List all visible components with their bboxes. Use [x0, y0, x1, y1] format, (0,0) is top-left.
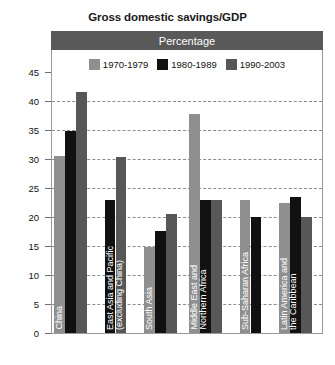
page-title: Gross domestic savings/GDP [0, 11, 335, 23]
bar [251, 217, 262, 333]
x-axis-category-label-line: Northern Africa [200, 265, 209, 330]
bar-group: China [52, 72, 97, 333]
x-axis-category-label-line: Sub-Saharan Africa [241, 252, 250, 330]
y-axis-tick-mark [45, 304, 51, 305]
y-axis-tick-label: 40 [28, 96, 39, 107]
x-axis-category-label-line: (excluding China) [115, 246, 124, 330]
bar-group: Sub-Saharan Africa [232, 72, 277, 333]
y-axis-tick-mark [45, 275, 51, 276]
x-axis-category-label: Latin America andthe Caribbean [280, 258, 299, 330]
x-axis-category-label: Middle East andNorthern Africa [190, 265, 209, 330]
x-axis-category-label-line: China [55, 306, 64, 330]
y-axis-tick-mark [45, 217, 51, 218]
bar-group: East Asia and Pacific(excluding China) [97, 72, 142, 333]
legend-item: 1970-1979 [89, 59, 148, 70]
y-axis-tick-label: 20 [28, 212, 39, 223]
y-axis-tick-label: 30 [28, 154, 39, 165]
x-axis-category-label: Sub-Saharan Africa [241, 252, 250, 330]
bar [76, 92, 87, 333]
bar-group: South Asia [142, 72, 187, 333]
y-axis-tick-mark [45, 72, 51, 73]
bar [301, 217, 312, 333]
chart-legend: 1970-19791980-19891990-2003 [51, 56, 323, 72]
legend-label: 1990-2003 [240, 59, 285, 70]
y-axis-tick-label: 25 [28, 183, 39, 194]
y-axis-tick-label: 45 [28, 67, 39, 78]
legend-swatch-icon [157, 59, 168, 70]
y-axis-tick-mark [45, 130, 51, 131]
bar [211, 200, 222, 333]
bar [65, 131, 76, 333]
x-axis-category-label-line: the Caribbean [290, 258, 299, 330]
bar-group: Middle East andNorthern Africa [187, 72, 232, 333]
y-axis-tick-mark [45, 101, 51, 102]
y-axis-tick-label: 15 [28, 241, 39, 252]
legend-label: 1980-1989 [171, 59, 216, 70]
x-axis-category-label: China [55, 306, 64, 330]
legend-swatch-icon [89, 59, 100, 70]
bar [166, 214, 177, 333]
y-axis: 051015202530354045 [0, 31, 46, 334]
y-axis-tick-mark [45, 159, 51, 160]
y-axis-tick-label: 5 [34, 299, 39, 310]
chart-subtitle-band: Percentage [51, 31, 323, 50]
x-axis-category-label: East Asia and Pacific(excluding China) [106, 246, 125, 330]
legend-swatch-icon [226, 59, 237, 70]
legend-item: 1980-1989 [157, 59, 216, 70]
legend-label: 1970-1979 [103, 59, 148, 70]
chart-figure: Gross domestic savings/GDP Percentage 19… [0, 0, 335, 365]
y-axis-tick-mark [45, 333, 51, 334]
x-axis-category-label-line: South Asia [145, 287, 154, 330]
chart-subtitle: Percentage [159, 35, 215, 47]
legend-item: 1990-2003 [226, 59, 285, 70]
bar-group: Latin America andthe Caribbean [277, 72, 322, 333]
y-axis-tick-mark [45, 188, 51, 189]
y-axis-tick-label: 35 [28, 125, 39, 136]
x-axis-category-label: South Asia [145, 287, 154, 330]
y-axis-tick-label: 10 [28, 270, 39, 281]
y-axis-tick-mark [45, 246, 51, 247]
y-axis-tick-label: 0 [34, 328, 39, 339]
x-axis-category-label-line: East Asia and Pacific [106, 246, 115, 330]
plot-area: ChinaEast Asia and Pacific(excluding Chi… [52, 72, 322, 333]
bar [155, 231, 166, 333]
